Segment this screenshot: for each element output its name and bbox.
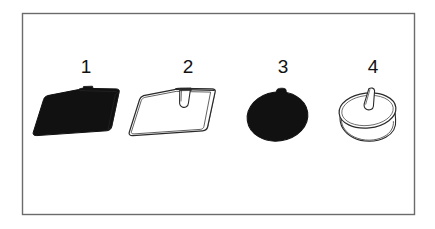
figure-plate: 1 2 3 4 [0, 0, 435, 229]
figure-plate-drawing [0, 0, 435, 229]
figure-3-label: 3 [263, 57, 303, 76]
figure-2-tab-notch [180, 88, 191, 91]
figure-2-label: 2 [168, 57, 208, 76]
figure-4-label: 4 [353, 57, 393, 76]
figure-1-label: 1 [66, 57, 106, 76]
